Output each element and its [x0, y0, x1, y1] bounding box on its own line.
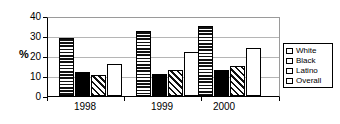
legend-label-overall: Overall	[296, 77, 321, 85]
x-tick-label-1999: 1999	[127, 101, 197, 112]
bar-chart-figure: % 40 30 20 10 0	[0, 0, 340, 124]
x-tick-mark-3	[279, 97, 280, 101]
bar-1998-black	[75, 72, 90, 96]
legend-swatch-black-icon	[286, 58, 293, 64]
bar-1999-black	[152, 74, 167, 96]
bar-group-2000	[198, 16, 264, 96]
y-tick-label-10: 10	[15, 72, 41, 82]
y-tick-label-30: 30	[15, 32, 41, 42]
legend-swatch-white-icon	[286, 48, 293, 54]
x-tick-mark-0	[47, 97, 48, 101]
legend-swatch-overall-icon	[286, 78, 293, 84]
chart-legend: White Black Latino Overall	[283, 43, 333, 88]
legend-label-white: White	[296, 47, 316, 55]
y-tick-label-0: 0	[15, 92, 41, 102]
bar-2000-latino	[230, 66, 245, 96]
legend-item-black: Black	[286, 56, 330, 65]
bar-2000-white	[198, 26, 213, 96]
y-tick-label-20: 20	[15, 52, 41, 62]
bar-group-1998	[59, 16, 125, 96]
bar-1999-white	[136, 31, 151, 96]
legend-item-latino: Latino	[286, 66, 330, 75]
legend-swatch-latino-icon	[286, 68, 293, 74]
x-tick-label-1998: 1998	[50, 101, 120, 112]
legend-item-overall: Overall	[286, 76, 330, 85]
bar-1998-white	[59, 38, 74, 96]
legend-label-black: Black	[296, 57, 316, 65]
bar-1998-latino	[91, 75, 106, 96]
bar-2000-black	[214, 70, 229, 96]
bar-group-1999	[136, 16, 202, 96]
y-tick-label-40: 40	[15, 12, 41, 22]
legend-label-latino: Latino	[296, 67, 318, 75]
bar-1999-latino	[168, 70, 183, 96]
plot-area	[47, 17, 280, 97]
bar-2000-overall	[246, 48, 261, 96]
legend-item-white: White	[286, 46, 330, 55]
x-tick-label-2000: 2000	[189, 101, 259, 112]
bar-1999-overall	[184, 52, 199, 96]
bar-1998-overall	[107, 64, 122, 96]
x-tick-mark-1	[124, 97, 125, 101]
